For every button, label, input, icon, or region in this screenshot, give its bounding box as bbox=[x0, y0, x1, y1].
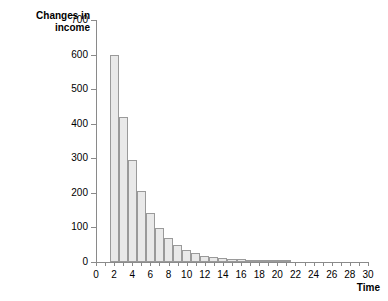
y-axis-tick-label: 400 bbox=[46, 119, 88, 129]
bar bbox=[237, 259, 246, 262]
y-axis-tick bbox=[91, 193, 96, 194]
x-axis-tick bbox=[259, 262, 260, 266]
y-axis-tick bbox=[91, 124, 96, 125]
x-axis-tick bbox=[295, 262, 296, 266]
x-axis-tick bbox=[332, 262, 333, 266]
bar bbox=[227, 259, 236, 262]
bar bbox=[264, 260, 273, 262]
x-axis-tick bbox=[277, 262, 278, 266]
x-axis-tick bbox=[286, 262, 287, 266]
bar bbox=[173, 245, 182, 262]
bar bbox=[164, 238, 173, 262]
x-axis-tick bbox=[350, 262, 351, 266]
x-axis-tick bbox=[114, 262, 115, 266]
x-axis-tick bbox=[250, 262, 251, 266]
x-axis-tick bbox=[132, 262, 133, 266]
x-axis-tick bbox=[169, 262, 170, 266]
bar bbox=[137, 191, 146, 262]
bar bbox=[200, 256, 209, 262]
bar bbox=[155, 228, 164, 262]
x-axis-tick bbox=[214, 262, 215, 266]
bar-chart: Changes in income Time 01002003004005006… bbox=[0, 0, 388, 301]
x-axis-tick bbox=[341, 262, 342, 266]
x-axis-tick bbox=[305, 262, 306, 266]
y-axis-tick-label: 500 bbox=[46, 84, 88, 94]
x-axis-tick-label: 30 bbox=[356, 269, 380, 280]
x-axis-tick bbox=[368, 262, 369, 266]
y-axis-tick bbox=[91, 20, 96, 21]
x-axis-tick bbox=[232, 262, 233, 266]
bar bbox=[282, 260, 291, 262]
plot-area bbox=[96, 20, 368, 262]
bar bbox=[119, 117, 128, 262]
y-axis-tick-label: 700 bbox=[46, 15, 88, 25]
x-axis-tick bbox=[105, 262, 106, 266]
x-axis-tick bbox=[123, 262, 124, 266]
y-axis-tick bbox=[91, 227, 96, 228]
y-axis-tick-label: 300 bbox=[46, 153, 88, 163]
y-axis-tick bbox=[91, 158, 96, 159]
bar bbox=[255, 260, 264, 262]
x-axis-title: Time bbox=[322, 282, 380, 293]
y-axis-tick bbox=[91, 55, 96, 56]
y-axis-tick-label: 100 bbox=[46, 222, 88, 232]
x-axis-tick bbox=[241, 262, 242, 266]
y-axis-tick bbox=[91, 89, 96, 90]
bar bbox=[209, 257, 218, 262]
bar bbox=[218, 258, 227, 262]
bar bbox=[182, 250, 191, 262]
x-axis-tick bbox=[178, 262, 179, 266]
x-axis-tick bbox=[159, 262, 160, 266]
bar bbox=[146, 213, 155, 262]
x-axis-tick bbox=[196, 262, 197, 266]
x-axis-tick bbox=[323, 262, 324, 266]
x-axis-tick bbox=[141, 262, 142, 266]
x-axis-tick bbox=[205, 262, 206, 266]
x-axis-tick bbox=[359, 262, 360, 266]
x-axis-tick bbox=[314, 262, 315, 266]
x-axis-tick bbox=[187, 262, 188, 266]
x-axis-tick bbox=[223, 262, 224, 266]
bar bbox=[246, 260, 255, 262]
x-axis-tick bbox=[268, 262, 269, 266]
y-axis-tick-label: 200 bbox=[46, 188, 88, 198]
x-axis-tick bbox=[150, 262, 151, 266]
bar bbox=[110, 55, 119, 262]
bar bbox=[128, 160, 137, 262]
y-axis-tick-label: 0 bbox=[46, 257, 88, 267]
bar bbox=[273, 260, 282, 262]
bar bbox=[191, 253, 200, 262]
y-axis-tick-label: 600 bbox=[46, 50, 88, 60]
x-axis-tick bbox=[96, 262, 97, 266]
